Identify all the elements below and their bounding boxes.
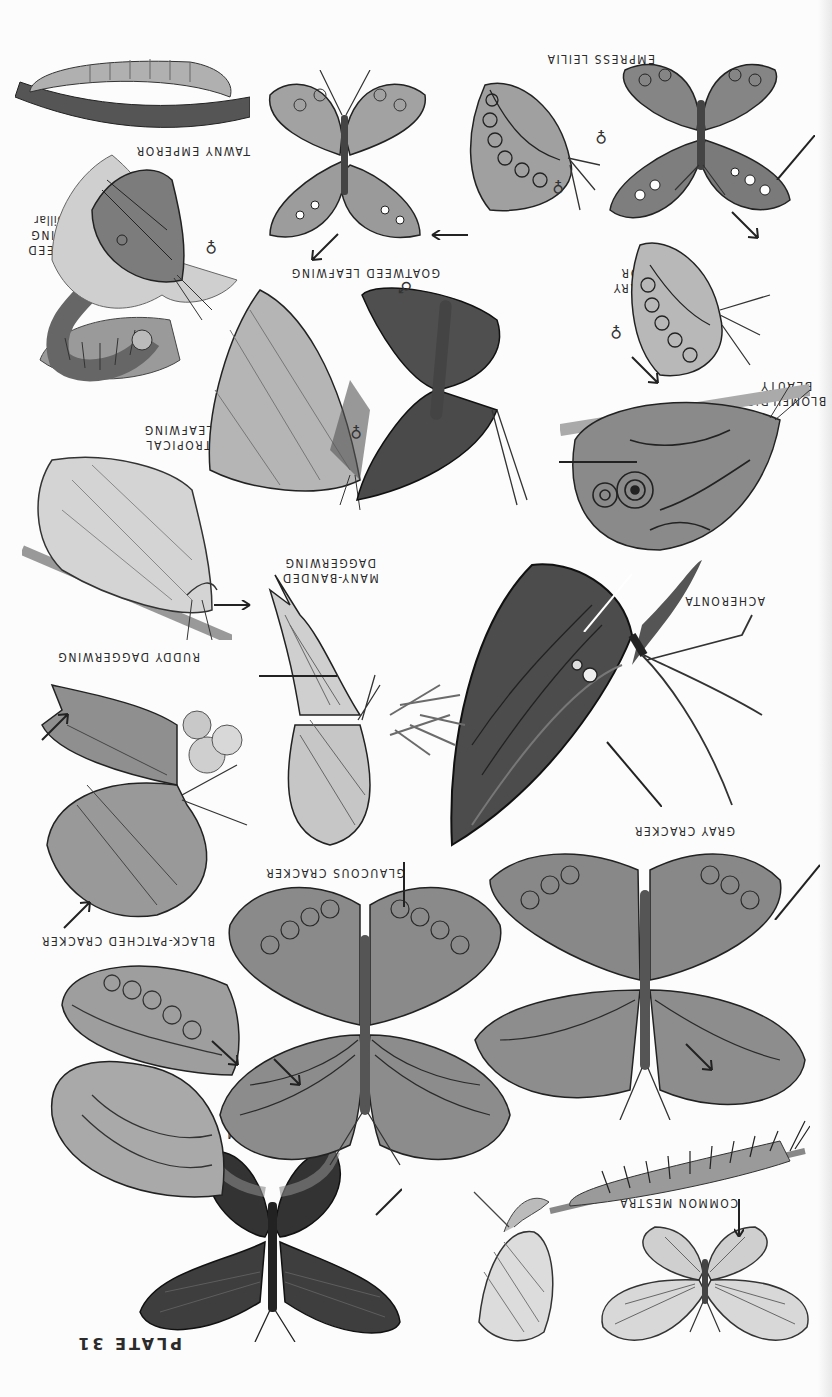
- pointer-arrow: [372, 1187, 402, 1217]
- pointer-line: [775, 135, 815, 180]
- pointer-arrow: [62, 900, 92, 930]
- pointer-line: [770, 860, 820, 920]
- label-tawny-emperor: TAWNY EMPEROR: [135, 143, 250, 158]
- figure-blomfilds-beauty: [560, 380, 810, 560]
- field-guide-plate: PLATE 31 COMMON MESTRA: [0, 0, 832, 1397]
- pointer-arrow: [684, 1042, 714, 1072]
- pointer-line: [602, 737, 662, 807]
- female-symbol: ♀: [205, 238, 217, 257]
- figure-gray-cracker: [465, 840, 820, 1120]
- pointer-line: [582, 572, 632, 632]
- female-symbol: ♀: [552, 178, 564, 197]
- pointer-arrow: [630, 355, 660, 385]
- page-edge-shadow: [818, 0, 832, 1397]
- pointer-arrow: [272, 1057, 302, 1087]
- pointer-arrow: [310, 232, 340, 262]
- label-ruddy-daggerwing: RUDDY DAGGERWING: [57, 649, 200, 664]
- figure-goatweed-leafwing-chrysalis: [15, 52, 250, 137]
- figure-many-banded-daggerwing: [225, 565, 470, 855]
- figure-tawny-emperor-underside: [42, 145, 242, 320]
- pointer-arrow: [40, 712, 70, 742]
- pointer-arrow: [730, 210, 760, 240]
- pointer-line: [257, 673, 337, 679]
- pointer-arrow: [430, 230, 470, 240]
- female-symbol: ♀: [610, 323, 622, 342]
- figure-black-patched-cracker: [37, 950, 242, 1205]
- pointer-line: [401, 862, 407, 907]
- label-black-patched-cracker: BLACK-PATCHED CRACKER: [40, 933, 215, 948]
- figure-tawny-emperor: [255, 70, 440, 255]
- figure-empress-leilia-underside: [460, 70, 600, 220]
- pointer-line: [557, 459, 637, 465]
- male-symbol: ♂: [398, 278, 412, 297]
- figure-common-mestra-upperside: [595, 1222, 815, 1352]
- figure-goatweed-leafwing-male: [352, 270, 547, 520]
